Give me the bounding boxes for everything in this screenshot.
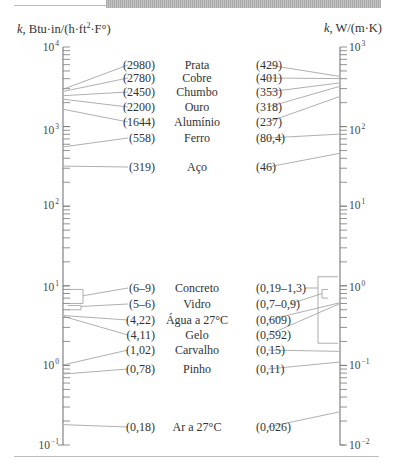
value-si-1: (401) <box>256 72 282 85</box>
material-name-2: Chumbo <box>147 86 247 99</box>
value-btu-8: (5–6) <box>85 298 155 311</box>
right-leader-6 <box>268 153 339 167</box>
left-bracket-concreto <box>68 289 83 303</box>
material-name-6: Aço <box>147 161 247 174</box>
material-name-12: Pinho <box>147 363 247 376</box>
left-decade-3: 101 <box>43 279 59 293</box>
left-decade-4: 100 <box>43 357 59 371</box>
value-btu-1: (2780) <box>85 72 155 85</box>
material-name-8: Vidro <box>147 298 247 311</box>
right-decade-1: 102 <box>349 122 365 136</box>
value-btu-6: (319) <box>85 161 155 174</box>
material-name-13: Ar a 27°C <box>147 421 247 434</box>
value-si-3: (318) <box>256 101 282 114</box>
value-si-4: (237) <box>256 116 282 129</box>
material-name-10: Gelo <box>147 329 247 342</box>
value-btu-2: (2450) <box>85 86 155 99</box>
left-bracket-vidro <box>68 305 81 309</box>
value-si-12: (0,11) <box>256 363 285 376</box>
material-name-9: Água a 27°C <box>147 314 247 327</box>
material-name-3: Ouro <box>147 101 247 114</box>
value-btu-10: (4,11) <box>85 329 155 342</box>
right-decade-4: 10−1 <box>349 357 369 371</box>
value-si-5: (80,4) <box>256 132 285 145</box>
footer-rule <box>14 456 379 457</box>
value-si-8: (0,7–0,9) <box>256 298 300 311</box>
value-btu-11: (1,02) <box>85 344 155 357</box>
value-si-10: (0,592) <box>256 329 291 342</box>
value-btu-7: (6–9) <box>85 282 155 295</box>
left-decade-0: 104 <box>43 39 59 53</box>
right-bracket-vidro <box>322 289 328 298</box>
left-decade-1: 103 <box>43 122 59 136</box>
material-name-4: Alumínio <box>147 116 247 129</box>
right-decade-0: 103 <box>349 39 365 53</box>
value-si-11: (0,15) <box>256 344 285 357</box>
value-btu-12: (0,78) <box>85 363 155 376</box>
left-decade-5: 10−1 <box>39 437 59 451</box>
value-si-2: (353) <box>256 86 282 99</box>
right-decade-3: 100 <box>349 279 365 293</box>
right-decade-5: 10−2 <box>349 437 369 451</box>
material-name-1: Cobre <box>147 72 247 85</box>
value-si-9: (0,609) <box>256 314 291 327</box>
value-btu-4: (1644) <box>85 116 155 129</box>
value-btu-5: (558) <box>85 132 155 145</box>
value-btu-9: (4,22) <box>85 314 155 327</box>
left-decade-2: 102 <box>43 197 59 211</box>
value-btu-3: (2200) <box>85 101 155 114</box>
value-btu-13: (0,18) <box>85 421 155 434</box>
right-decade-2: 101 <box>349 197 365 211</box>
right-bracket-concreto <box>318 277 338 343</box>
value-si-6: (46) <box>256 161 276 174</box>
material-name-5: Ferro <box>147 132 247 145</box>
material-name-7: Concreto <box>147 282 247 295</box>
material-name-11: Carvalho <box>147 344 247 357</box>
value-si-7: (0,19–1,3) <box>256 282 306 295</box>
value-si-13: (0,026) <box>256 421 291 434</box>
